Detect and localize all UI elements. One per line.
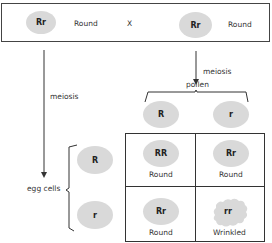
- offspring-genotype-4: rr: [224, 207, 232, 216]
- offspring-phenotype-4: Wrinkled: [213, 228, 246, 237]
